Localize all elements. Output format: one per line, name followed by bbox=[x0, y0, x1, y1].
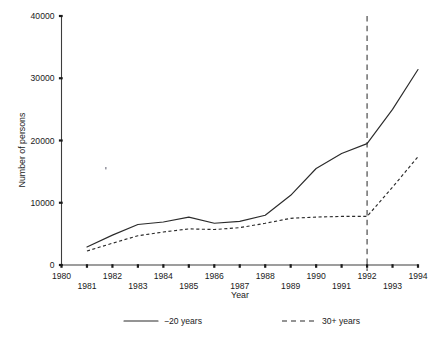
scan-speck bbox=[105, 167, 107, 169]
data-series-group bbox=[87, 70, 418, 251]
x-tick-label: 1992 bbox=[358, 271, 377, 281]
x-tick-label: 1993 bbox=[383, 281, 402, 291]
x-axis-tick-labels: 1980198119821983198419851986198719881989… bbox=[52, 271, 428, 291]
chart-legend: −20 years 30+ years bbox=[124, 316, 360, 326]
legend-label-30-plus-years: 30+ years bbox=[322, 316, 360, 326]
y-axis-title: Number of persons bbox=[17, 112, 27, 187]
x-tick-label: 1994 bbox=[408, 271, 427, 281]
x-tick-label: 1982 bbox=[103, 271, 122, 281]
x-tick-label: 1985 bbox=[179, 281, 198, 291]
x-tick-label: 1987 bbox=[230, 281, 249, 291]
y-tick-label: 40000 bbox=[31, 11, 55, 21]
y-tick-label: 20000 bbox=[31, 136, 55, 146]
x-tick-label: 1983 bbox=[128, 281, 147, 291]
y-axis-ticks bbox=[59, 16, 63, 265]
y-axis-tick-labels: 010000200003000040000 bbox=[31, 11, 55, 270]
y-tick-label: 10000 bbox=[31, 198, 55, 208]
x-tick-label: 1988 bbox=[256, 271, 275, 281]
x-tick-label: 1990 bbox=[307, 271, 326, 281]
x-tick-label: 1980 bbox=[52, 271, 71, 281]
x-tick-label: 1981 bbox=[77, 281, 96, 291]
line-chart: 010000200003000040000 198019811982198319… bbox=[0, 0, 442, 343]
legend-label-minus-20-years: −20 years bbox=[164, 316, 202, 326]
x-tick-label: 1991 bbox=[332, 281, 351, 291]
series-line-30-years bbox=[87, 157, 418, 251]
x-tick-label: 1984 bbox=[154, 271, 173, 281]
x-axis-title: Year bbox=[231, 290, 249, 300]
y-tick-label: 0 bbox=[50, 260, 55, 270]
y-tick-label: 30000 bbox=[31, 73, 55, 83]
axes-frame bbox=[62, 16, 419, 265]
series-line--20-years bbox=[87, 70, 418, 247]
x-tick-label: 1989 bbox=[281, 281, 300, 291]
x-tick-label: 1986 bbox=[205, 271, 224, 281]
chart-figure: 010000200003000040000 198019811982198319… bbox=[0, 0, 442, 343]
